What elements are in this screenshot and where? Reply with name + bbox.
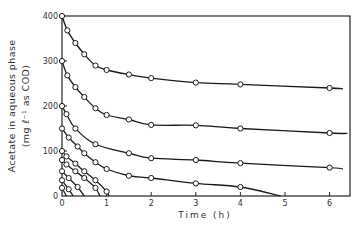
data-point-marker [238, 184, 243, 189]
y-tick-label: 300 [43, 57, 58, 66]
x-tick-label: 3 [193, 199, 198, 208]
data-point-marker [66, 175, 71, 180]
data-point-marker [64, 154, 69, 159]
data-point-marker [59, 169, 64, 174]
data-point-marker [59, 148, 64, 153]
y-tick-label: 200 [43, 102, 58, 111]
fit-curve [62, 16, 343, 89]
data-point-marker [73, 85, 78, 90]
data-point-marker [193, 123, 198, 128]
data-point-marker [126, 117, 131, 122]
data-point-marker [238, 82, 243, 87]
data-point-marker [93, 178, 98, 183]
axis-labels: Acetate in aqueous phase (mg ℓ⁻¹ as COD)… [6, 39, 232, 220]
data-point-marker [327, 165, 332, 170]
data-point-marker [66, 135, 71, 140]
data-point-marker [59, 103, 64, 108]
y-tick-label: 0 [53, 192, 58, 201]
data-point-marker [59, 126, 64, 131]
data-point-marker [73, 40, 78, 45]
data-point-marker [82, 52, 87, 57]
data-point-marker [238, 161, 243, 166]
x-tick-label: 4 [238, 199, 243, 208]
x-tick-label: 6 [327, 199, 332, 208]
data-point-marker [59, 157, 64, 162]
data-point-marker [65, 28, 70, 33]
y-axis-label-line2: (mg ℓ⁻¹ as COD) [20, 65, 31, 148]
y-axis-label-line1: Acetate in aqueous phase [6, 39, 17, 172]
data-point-marker [126, 173, 131, 178]
data-point-marker [93, 63, 98, 68]
y-tick-label: 100 [43, 147, 58, 156]
data-point-marker [66, 187, 71, 192]
x-tick-label: 5 [282, 199, 287, 208]
data-point-marker [82, 175, 87, 180]
data-point-marker [73, 161, 78, 166]
data-point-marker [93, 185, 98, 190]
data-point-marker [238, 126, 243, 131]
x-tick-label: 1 [104, 199, 109, 208]
y-tick-label: 400 [43, 12, 58, 21]
data-point-marker [64, 112, 69, 117]
data-point-marker [104, 189, 109, 194]
data-point-marker [327, 130, 332, 135]
data-point-marker [193, 80, 198, 85]
data-point-marker [104, 67, 109, 72]
data-point-marker [126, 151, 131, 156]
data-point-marker [104, 112, 109, 117]
data-point-marker [59, 185, 64, 190]
data-point-marker [73, 126, 78, 131]
data-point-marker [193, 181, 198, 186]
x-tick-label: 2 [149, 199, 154, 208]
data-point-marker [126, 72, 131, 77]
data-point-marker [75, 144, 80, 149]
data-points [59, 13, 332, 194]
x-axis-label: Time (h) [177, 210, 232, 220]
data-point-marker [59, 178, 64, 183]
data-point-marker [82, 169, 87, 174]
data-point-marker [149, 122, 154, 127]
data-point-marker [82, 94, 87, 99]
chart-svg: 01234560100200300400 Acetate in aqueous … [0, 0, 359, 230]
data-point-marker [82, 151, 87, 156]
data-point-marker [64, 162, 69, 167]
data-point-marker [104, 166, 109, 171]
data-point-marker [149, 156, 154, 161]
data-point-marker [93, 142, 98, 147]
x-tick-label: 0 [59, 199, 64, 208]
data-point-marker [149, 76, 154, 81]
data-point-marker [65, 73, 70, 78]
data-point-marker [93, 106, 98, 111]
data-point-marker [327, 85, 332, 90]
data-point-marker [75, 184, 80, 189]
data-point-marker [73, 169, 78, 174]
data-point-marker [193, 157, 198, 162]
chart-figure: 01234560100200300400 Acetate in aqueous … [0, 0, 359, 230]
data-point-marker [93, 160, 98, 165]
data-point-marker [59, 13, 64, 18]
data-point-marker [149, 175, 154, 180]
data-point-marker [59, 58, 64, 63]
